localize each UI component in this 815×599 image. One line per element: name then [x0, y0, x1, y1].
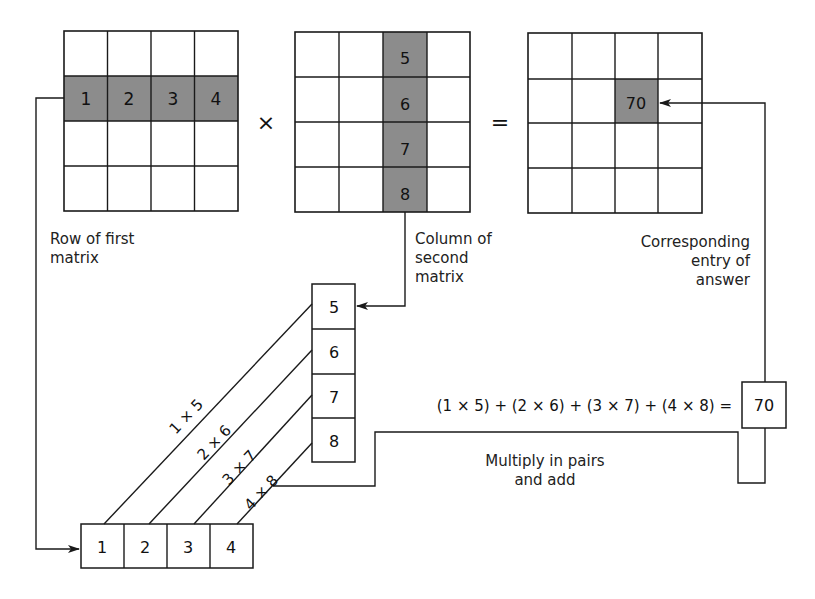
- matrix-a-value: 1: [81, 89, 92, 109]
- pairing-lines: [104, 304, 312, 524]
- matrix-b-value: 5: [400, 49, 410, 68]
- row-box-value: 1: [97, 538, 107, 557]
- column-box-value: 8: [329, 432, 339, 451]
- matrix-b-value: 7: [400, 140, 410, 159]
- column-box: 5 6 7 8: [312, 284, 355, 462]
- sum-equation: (1 × 5) + (2 × 6) + (3 × 7) + (4 × 8) =: [437, 397, 732, 415]
- column-of-second-matrix-label: Column of second matrix: [415, 230, 492, 287]
- row-of-first-matrix-label: Row of first matrix: [50, 230, 135, 268]
- diagram-canvas: 1 2 3 4 × 5 6 7 8 = 70: [0, 0, 815, 599]
- result-box: 70: [742, 382, 786, 428]
- corresponding-entry-label: Corresponding entry of answer: [580, 233, 750, 290]
- column-box-value: 5: [329, 298, 339, 317]
- matrix-a-value: 4: [211, 89, 222, 109]
- row-box: 1 2 3 4: [81, 524, 253, 568]
- matrix-c-value: 70: [626, 94, 646, 113]
- result-value: 70: [754, 396, 774, 415]
- row-box-value: 3: [183, 538, 193, 557]
- matrix-a-value: 2: [124, 89, 135, 109]
- matrix-c: 70: [528, 33, 702, 213]
- product-label: 2 × 6: [194, 421, 235, 463]
- multiply-and-add-label: Multiply in pairs and add: [455, 452, 635, 490]
- matrix-b-value: 6: [400, 95, 410, 114]
- product-label: 1 × 5: [166, 395, 207, 437]
- product-label: 4 × 8: [241, 471, 282, 513]
- column-box-value: 6: [329, 343, 339, 362]
- matrix-a-value: 3: [168, 89, 179, 109]
- multiply-operator: ×: [257, 110, 275, 135]
- matrix-a: 1 2 3 4: [64, 31, 238, 211]
- column-connector-arrow: [357, 212, 405, 306]
- row-box-value: 4: [226, 538, 236, 557]
- equals-operator: =: [491, 110, 509, 135]
- column-box-value: 7: [329, 388, 339, 407]
- matrix-b: 5 6 7 8: [295, 32, 470, 212]
- product-label: 3 × 7: [219, 446, 260, 488]
- matrix-b-value: 8: [400, 185, 410, 204]
- row-box-value: 2: [140, 538, 150, 557]
